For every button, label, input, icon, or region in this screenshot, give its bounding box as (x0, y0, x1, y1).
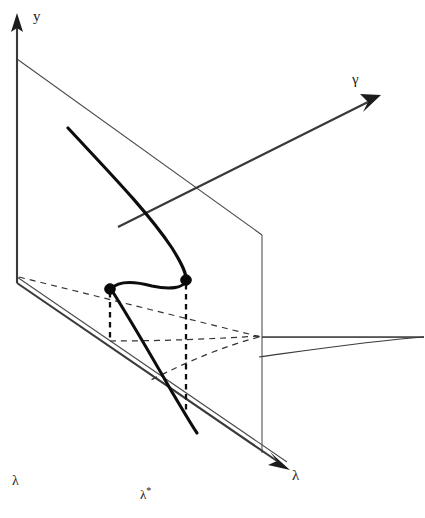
lambda-star-mark: * (146, 485, 151, 496)
diagram-canvas (0, 0, 425, 518)
lambda-axis-line (17, 283, 277, 461)
equilibrium-lower-branch (111, 289, 197, 433)
base-plane-frame (17, 277, 424, 462)
lower-fold-point-marker (105, 284, 116, 295)
plane-top-edge (17, 59, 262, 235)
gamma-axis-line (118, 102, 368, 227)
upper-fold-point-marker (181, 275, 192, 286)
bifurcation-upper-branch-hidden (110, 336, 259, 341)
lambda-star-label: λ* (140, 486, 151, 501)
y-axis-label: y (33, 9, 41, 24)
bifurcation-lower-branch (259, 337, 424, 357)
lambda-axis-arrow-icon (268, 452, 290, 470)
bifurcation-set-group (110, 336, 424, 382)
gamma-axis-arrow-icon (360, 94, 381, 112)
vertical-plane-frame (17, 59, 262, 453)
axes-group (11, 13, 381, 470)
lambda-plane-label: λ (12, 474, 19, 488)
plane-base-hidden-edge (19, 277, 261, 337)
equilibrium-middle-branch (111, 281, 186, 289)
bifurcation-diagram-figure: y γ λ λ λ* (0, 0, 425, 518)
gamma-axis-label: γ (352, 72, 359, 87)
lambda-axis-label: λ (292, 468, 299, 483)
equilibrium-upper-branch (68, 128, 186, 281)
base-plane-front-edge (17, 277, 287, 462)
